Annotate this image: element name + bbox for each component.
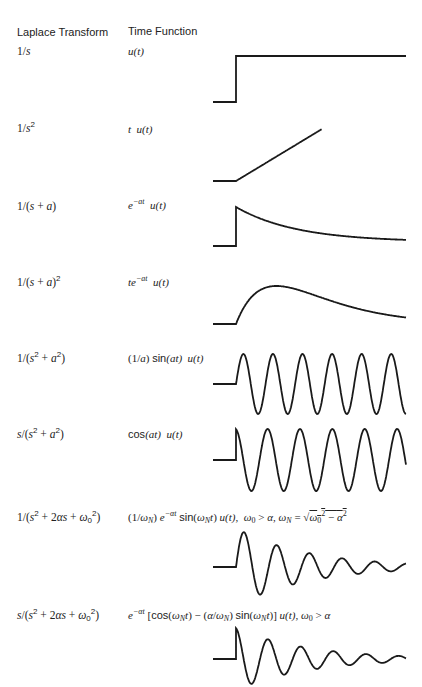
plot-step — [213, 56, 406, 102]
plot-sine — [213, 354, 406, 414]
plot-damped-sine — [213, 532, 406, 594]
plot-t-exp-decay — [213, 286, 406, 324]
plot-cosine — [213, 429, 406, 491]
plot-exp-decay — [213, 207, 406, 246]
plot-damped-cosine — [213, 628, 406, 684]
time-function-plots — [0, 0, 422, 687]
plot-ramp — [213, 129, 322, 181]
